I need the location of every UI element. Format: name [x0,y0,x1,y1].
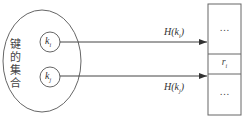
key-j-label: kj [45,70,51,83]
key-set-label: 键的集合 [10,38,22,90]
key-i-label: ki [45,35,51,48]
hash-i-label: H(ki) [164,26,184,39]
table-cell-ri: ri [208,56,241,69]
hash-j-label: H(kj) [164,81,184,94]
table-cell-top: … [208,22,241,33]
table-cell-bottom: … [208,86,241,97]
